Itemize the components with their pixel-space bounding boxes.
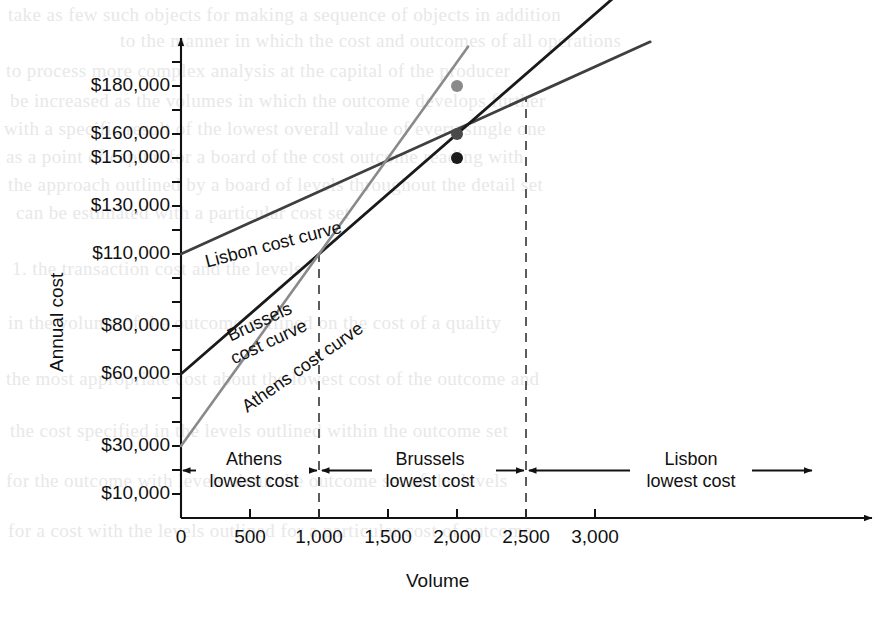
brussels-lowest-cost-label: Brussels lowest cost — [368, 449, 492, 493]
y-axis-tick-label: $180,000 — [58, 74, 170, 96]
brussels-region-line1: Brussels — [368, 449, 492, 471]
x-axis-tick-label: 500 — [210, 526, 290, 548]
athens-region-line2: lowest cost — [198, 471, 310, 493]
x-axis-tick-label: 2,500 — [486, 526, 566, 548]
data-point-marker[interactable] — [451, 152, 463, 164]
data-point-marker[interactable] — [451, 128, 463, 140]
data-point-marker[interactable] — [451, 80, 463, 92]
y-axis-tick-label: $130,000 — [58, 194, 170, 216]
y-axis-tick-label: $60,000 — [58, 362, 170, 384]
cost-curve-line — [181, 42, 650, 254]
cost-volume-chart-figure: take as few such objects for making a se… — [0, 0, 894, 625]
axes-group — [172, 38, 872, 518]
data-point-markers-group — [451, 80, 463, 164]
lisbon-region-line1: Lisbon — [634, 449, 748, 471]
y-axis-tick-label: $10,000 — [58, 482, 170, 504]
x-axis-title: Volume — [406, 570, 469, 592]
x-axis-tick-label: 1,000 — [279, 526, 359, 548]
x-axis-tick-label: 2,000 — [417, 526, 497, 548]
y-axis-tick-label: $80,000 — [58, 314, 170, 336]
x-axis-tick-label: 3,000 — [555, 526, 635, 548]
athens-region-line1: Athens — [198, 449, 310, 471]
brussels-region-line2: lowest cost — [368, 471, 492, 493]
x-axis-tick-label: 0 — [141, 526, 221, 548]
y-axis-tick-label: $30,000 — [58, 434, 170, 456]
athens-lowest-cost-label: Athens lowest cost — [198, 449, 310, 493]
cost-curves-group — [181, 0, 650, 446]
y-axis-tick-label: $150,000 — [58, 146, 170, 168]
y-axis-tick-label: $160,000 — [58, 122, 170, 144]
lisbon-region-line2: lowest cost — [634, 471, 748, 493]
y-axis-tick-label: $110,000 — [58, 242, 170, 264]
y-axis-title: Annual cost — [46, 273, 68, 372]
lisbon-lowest-cost-label: Lisbon lowest cost — [634, 449, 748, 493]
x-axis-tick-label: 1,500 — [348, 526, 428, 548]
